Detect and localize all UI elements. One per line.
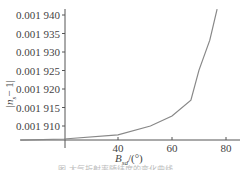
chart-canvas: 0.001 9100.001 9150.001 9200.001 9250.00… — [0, 0, 249, 170]
y-tick-label: 0.001 930 — [16, 46, 61, 58]
y-tick-label: 0.001 910 — [16, 120, 61, 132]
y-tick-label: 0.001 925 — [16, 65, 61, 77]
y-tick-label: 0.001 935 — [16, 28, 61, 40]
x-tick-label: 60 — [167, 142, 179, 154]
x-tick-label: 80 — [221, 142, 233, 154]
y-tick-label: 0.001 920 — [16, 83, 61, 95]
figure-caption: 图 大气折射率随纬度的变化曲线 — [58, 163, 173, 170]
y-tick-label: 0.001 915 — [16, 102, 61, 114]
y-ticks: 0.001 9100.001 9150.001 9200.001 9250.00… — [16, 9, 65, 132]
y-tick-label: 0.001 940 — [16, 9, 61, 21]
